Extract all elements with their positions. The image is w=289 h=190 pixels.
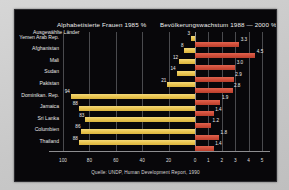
- bar-value-label-literacy: 88: [67, 136, 78, 141]
- bar-value-label-literacy: 12: [167, 55, 178, 60]
- bar-literacy: [71, 94, 195, 99]
- category-label: Jamaica: [15, 103, 59, 109]
- bar-population-growth: [195, 42, 239, 47]
- bar-literacy: [81, 129, 195, 134]
- tick-label-left-20: 20: [166, 158, 171, 163]
- chart-panel: Alphabetisierte Frauen 1985 % Bevölkerun…: [14, 9, 277, 182]
- gridline-left-40: [142, 32, 143, 152]
- category-label: Pakistan: [15, 80, 59, 86]
- bar-literacy: [79, 140, 195, 145]
- tick-label-right-2: 2: [220, 158, 223, 163]
- tick-label-right-5: 5: [261, 158, 264, 163]
- page-background: Alphabetisierte Frauen 1985 % Bevölkerun…: [0, 0, 289, 190]
- category-label: Columbien: [15, 126, 59, 132]
- bar-literacy: [191, 36, 195, 41]
- bar-value-label-growth: 3.0: [237, 60, 243, 65]
- bar-population-growth: [195, 53, 255, 58]
- bar-value-label-literacy: 3: [179, 31, 190, 36]
- bar-value-label-literacy: 8: [172, 43, 183, 48]
- baseline-axis: [49, 151, 270, 152]
- bar-population-growth: [195, 111, 214, 116]
- plot-area: Yemen Arab Rep.33.3Afghanistan84.5Mali12…: [15, 32, 276, 158]
- chart-title-right: Bevölkerungswachstum 1988 — 2000 %: [160, 21, 277, 28]
- category-label: Mali: [15, 57, 59, 63]
- gridline-right-4: [249, 32, 250, 152]
- gridline-left-20: [169, 32, 170, 152]
- bar-value-label-growth: 1.8: [221, 130, 227, 135]
- bar-value-label-growth: 1.9: [222, 95, 228, 100]
- gridline-left-80: [89, 32, 90, 152]
- bar-population-growth: [195, 77, 234, 82]
- tick-label-left-0: 0: [194, 158, 197, 163]
- bar-population-growth: [195, 135, 219, 140]
- tick-label-left-100: 100: [59, 158, 67, 163]
- tick-label-right-3: 3: [234, 158, 237, 163]
- source-note: Quelle: UNDP, Human Development Report, …: [15, 170, 276, 175]
- category-label: Sri Lanka: [15, 115, 59, 121]
- bar-value-label-growth: 1.4: [215, 141, 221, 146]
- bar-value-label-literacy: 88: [67, 101, 78, 106]
- bar-value-label-growth: 2.9: [235, 72, 241, 77]
- tick-label-left-40: 40: [140, 158, 145, 163]
- tick-label-right-1: 1: [207, 158, 210, 163]
- bar-value-label-growth: 1.2: [213, 118, 219, 123]
- bar-population-growth: [195, 100, 220, 105]
- bar-literacy: [184, 48, 195, 53]
- bar-value-label-growth: 2.8: [234, 83, 240, 88]
- category-label: Sudan: [15, 68, 59, 74]
- category-label: Dominikan. Rep.: [15, 92, 59, 98]
- bar-value-label-literacy: 83: [73, 113, 84, 118]
- bar-literacy: [167, 82, 195, 87]
- category-label: Thailand: [15, 138, 59, 144]
- tick-label-left-60: 60: [113, 158, 118, 163]
- bar-value-label-growth: 3.3: [241, 37, 247, 42]
- bar-value-label-growth: 1.4: [215, 107, 221, 112]
- bar-value-label-literacy: 94: [59, 89, 70, 94]
- category-label: Afghanistan: [15, 45, 59, 51]
- bar-population-growth: [195, 123, 211, 128]
- bar-value-label-literacy: 21: [155, 78, 166, 83]
- value-axis-ticks: 10080604020012345: [15, 158, 276, 168]
- chart-title-left: Alphabetisierte Frauen 1985 %: [57, 21, 146, 28]
- bar-population-growth: [195, 88, 233, 93]
- category-label: Yemen Arab Rep.: [15, 34, 59, 40]
- bar-value-label-literacy: 14: [165, 66, 176, 71]
- bar-literacy: [79, 106, 195, 111]
- bar-value-label-growth: 4.5: [257, 49, 263, 54]
- gridline-left-60: [116, 32, 117, 152]
- tick-label-left-80: 80: [87, 158, 92, 163]
- bar-literacy: [177, 71, 195, 76]
- gridline-right-3: [235, 32, 236, 152]
- bar-literacy: [85, 117, 195, 122]
- tick-label-right-4: 4: [247, 158, 250, 163]
- bar-population-growth: [195, 65, 235, 70]
- bar-value-label-literacy: 86: [69, 124, 80, 129]
- bar-literacy: [179, 59, 195, 64]
